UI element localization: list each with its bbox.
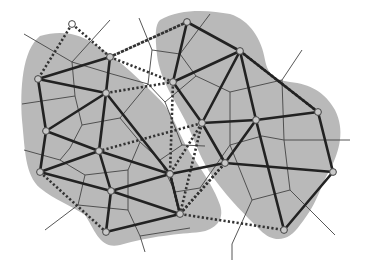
node-K bbox=[103, 229, 110, 236]
node-J bbox=[177, 211, 184, 218]
node-L bbox=[184, 19, 191, 26]
voronoi-edge bbox=[45, 205, 78, 230]
node-B bbox=[107, 54, 114, 61]
voronoi-edge bbox=[282, 50, 302, 80]
node-H bbox=[167, 171, 174, 178]
node-G bbox=[37, 169, 44, 176]
voronoi-edge bbox=[139, 18, 152, 50]
node-I bbox=[108, 188, 115, 195]
voronoi-delaunay-diagram bbox=[0, 0, 369, 264]
node-P bbox=[199, 120, 206, 127]
node-F bbox=[96, 148, 103, 155]
node-C bbox=[35, 76, 42, 83]
voronoi-edge bbox=[148, 50, 152, 84]
node-T bbox=[281, 227, 288, 234]
node-A bbox=[69, 21, 76, 28]
node-Q bbox=[253, 117, 260, 124]
node-R bbox=[222, 160, 229, 167]
node-S bbox=[330, 169, 337, 176]
node-M bbox=[237, 48, 244, 55]
node-D bbox=[103, 90, 110, 97]
node-N bbox=[170, 79, 177, 86]
node-O bbox=[315, 109, 322, 116]
node-E bbox=[43, 128, 50, 135]
